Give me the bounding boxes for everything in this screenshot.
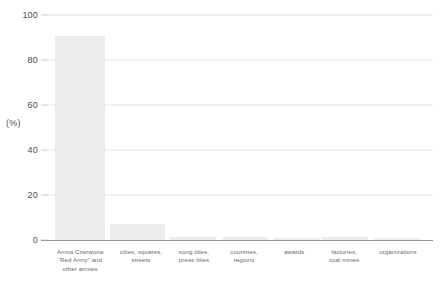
x-axis-category-label: cities, squares,streets (110, 248, 172, 265)
x-axis-category-label: countries,regions (216, 248, 272, 265)
y-axis-tick-mark (41, 195, 48, 196)
y-axis-tick-label: 60 (10, 100, 38, 110)
y-axis-tick-label: 80 (10, 55, 38, 65)
gridline (48, 195, 433, 196)
gridline (48, 150, 433, 151)
y-axis-tick-mark (41, 60, 48, 61)
y-axis-tick-mark (41, 15, 48, 16)
gridline (48, 105, 433, 106)
bar (55, 36, 105, 240)
y-axis-tick-mark (41, 150, 48, 151)
gridline (48, 60, 433, 61)
x-axis-category-label: factories,coal mines (316, 248, 372, 265)
gridline (48, 15, 433, 16)
y-axis-tick-mark (41, 105, 48, 106)
y-axis-tick-label: 100 (10, 10, 38, 20)
x-axis-category-label: organizations (366, 248, 430, 256)
x-axis-category-label: song titles,press titles (166, 248, 222, 265)
y-axis-tick-label: 40 (10, 145, 38, 155)
x-axis-category-label: awards (266, 248, 322, 256)
y-axis-tick-label: 20 (10, 190, 38, 200)
x-axis-line (41, 240, 433, 241)
bar-chart: (%) 020406080100 Armia Czerwona“Red Army… (0, 0, 441, 283)
y-axis-title: (%) (6, 118, 21, 128)
y-axis-tick-label: 0 (10, 235, 38, 245)
bar (110, 224, 165, 240)
